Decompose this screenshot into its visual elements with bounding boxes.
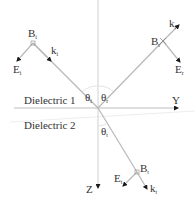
y-axis-label: Y bbox=[172, 94, 180, 106]
reflection-refraction-diagram: Bi ki Ei Br kr Er Bt kt Et θi θr θt Y Z … bbox=[0, 0, 195, 202]
k-transmitted-vector bbox=[137, 172, 147, 189]
e-reflected-label: Er bbox=[175, 63, 184, 76]
dielectric-2-label: Dielectric 2 bbox=[24, 119, 76, 131]
k-incident-label: ki bbox=[51, 44, 59, 57]
k-transmitted-label: kt bbox=[150, 182, 158, 195]
theta-reflected-label: θr bbox=[101, 91, 108, 104]
z-axis-label: Z bbox=[86, 183, 93, 195]
dielectric-1-label: Dielectric 1 bbox=[24, 94, 76, 106]
k-reflected-label: kr bbox=[169, 17, 177, 30]
b-reflected-cross-icon bbox=[160, 38, 166, 44]
e-incident-vector bbox=[17, 43, 33, 61]
e-incident-label: Ei bbox=[13, 63, 22, 76]
e-transmitted-label: Et bbox=[114, 172, 123, 185]
theta-incident-label: θi bbox=[85, 91, 92, 104]
b-reflected-label: Br bbox=[151, 35, 160, 48]
theta-transmitted-label: θt bbox=[101, 125, 108, 138]
k-incident-vector bbox=[33, 43, 51, 61]
b-transmitted-label: Bt bbox=[140, 162, 149, 175]
b-incident-label: Bi bbox=[28, 27, 37, 40]
transmitted-ray bbox=[98, 108, 137, 172]
e-reflected-vector bbox=[163, 41, 180, 62]
